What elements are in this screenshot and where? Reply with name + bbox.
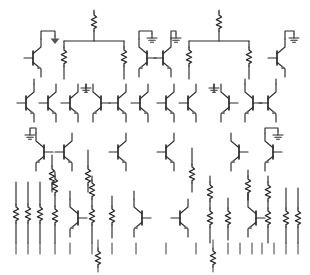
- row-3-group: [25, 128, 283, 200]
- transistor-q10: [131, 84, 148, 122]
- transistor-q9: [109, 84, 126, 122]
- transistor-q7: [61, 84, 78, 122]
- transistor-q3: [154, 31, 181, 77]
- resistor-r26: [95, 240, 100, 272]
- transistor-q13: [221, 84, 238, 122]
- resistor-r15: [52, 206, 57, 243]
- bias-network-left: [61, 10, 126, 79]
- resistor-r17: [89, 206, 94, 243]
- row-2-group: [17, 79, 276, 122]
- resistor-r22: [265, 176, 270, 208]
- resistor-r7: [49, 155, 54, 192]
- transistor-q19: [157, 133, 174, 171]
- transistor-q12: [179, 84, 196, 122]
- row-4-group: [13, 172, 300, 243]
- resistor-r19: [207, 176, 212, 208]
- transistor-q2: [139, 31, 157, 77]
- transistor-q5: [17, 84, 34, 122]
- resistor-r13: [37, 182, 42, 243]
- bias-network-right: [186, 10, 251, 79]
- row-5-group: [16, 240, 298, 272]
- resistor-r27: [210, 240, 215, 272]
- resistor-r21: [225, 198, 230, 240]
- transistor-q1: [24, 31, 60, 77]
- row-1-group: [24, 10, 299, 79]
- transistor-q24: [171, 199, 188, 237]
- ground-g6: [209, 84, 219, 92]
- transistor-q15: [259, 84, 276, 122]
- transistor-q18: [109, 133, 126, 171]
- resistor-r11: [13, 182, 18, 243]
- transistor-q16: [25, 128, 53, 171]
- resistor-r12: [25, 182, 30, 243]
- transistor-q8: [93, 84, 110, 122]
- resistor-r23: [265, 208, 270, 243]
- schematic-drawing: [0, 0, 310, 275]
- circuit-schematic-canvas: [0, 0, 310, 275]
- ground-g5: [81, 84, 91, 92]
- resistor-r8: [85, 150, 90, 192]
- transistor-q4: [268, 31, 299, 77]
- transistor-q22: [70, 191, 87, 237]
- resistor-r9: [189, 148, 194, 192]
- transistor-q20: [231, 133, 248, 171]
- transistor-q6: [39, 84, 56, 122]
- transistor-q23: [134, 191, 151, 237]
- resistor-r24: [283, 188, 288, 243]
- resistor-r18: [109, 196, 114, 238]
- transistor-q21: [265, 128, 283, 171]
- transistor-q11: [157, 84, 174, 122]
- transistor-q25: [248, 193, 265, 237]
- resistor-r20: [207, 208, 212, 243]
- transistor-q17: [55, 133, 72, 171]
- resistor-r25: [295, 188, 300, 243]
